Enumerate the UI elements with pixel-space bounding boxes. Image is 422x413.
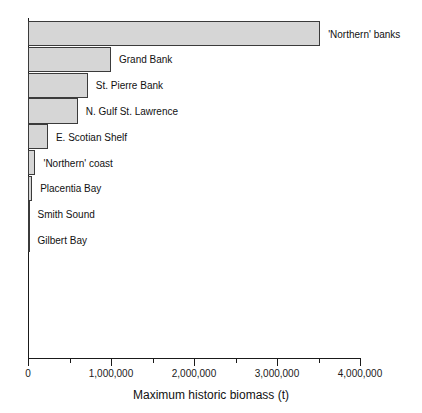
x-tick-label: 3,000,000 [255,368,300,379]
bars-layer: 'Northern' banksGrand BankSt. Pierre Ban… [28,18,360,358]
bar-label: Gilbert Bay [38,234,87,245]
x-tick-minor [153,359,154,363]
bar-row: Gilbert Bay [28,227,360,252]
x-tick-label: 1,000,000 [89,368,134,379]
x-tick-major [28,359,29,366]
x-tick-major [111,359,112,366]
bar[interactable] [28,124,48,149]
bar[interactable] [28,47,111,72]
bar[interactable] [28,227,30,252]
x-tick-label: 0 [25,368,31,379]
bar-row: N. Gulf St. Lawrence [28,98,360,123]
bar-label: Grand Bank [119,54,172,65]
bar[interactable] [28,201,30,226]
bar-label: 'Northern' banks [328,28,400,39]
x-tick-minor [319,359,320,363]
x-axis-title: Maximum historic biomass (t) [0,388,422,402]
bar-label: N. Gulf St. Lawrence [86,105,178,116]
x-tick-label: 4,000,000 [338,368,383,379]
bar-row: Smith Sound [28,201,360,226]
x-tick-minor [70,359,71,363]
bar-chart: 'Northern' banksGrand BankSt. Pierre Ban… [0,0,422,413]
bar-row: 'Northern' banks [28,21,360,46]
bar-label: Placentia Bay [40,183,101,194]
bar-row: Placentia Bay [28,176,360,201]
x-tick-major [360,359,361,366]
bar-label: Smith Sound [38,209,95,220]
x-tick-major [194,359,195,366]
bar-label: St. Pierre Bank [96,80,163,91]
bar[interactable] [28,98,78,123]
bar-row: Grand Bank [28,47,360,72]
bar[interactable] [28,150,35,175]
plot-area: 'Northern' banksGrand BankSt. Pierre Ban… [28,18,360,358]
bar[interactable] [28,21,320,46]
bar-row: St. Pierre Bank [28,73,360,98]
bar-label: 'Northern' coast [43,157,112,168]
bar[interactable] [28,176,32,201]
x-tick-minor [236,359,237,363]
bar-label: E. Scotian Shelf [56,131,127,142]
bar[interactable] [28,73,88,98]
bar-row: E. Scotian Shelf [28,124,360,149]
x-tick-label: 2,000,000 [172,368,217,379]
x-tick-major [277,359,278,366]
bar-row: 'Northern' coast [28,150,360,175]
